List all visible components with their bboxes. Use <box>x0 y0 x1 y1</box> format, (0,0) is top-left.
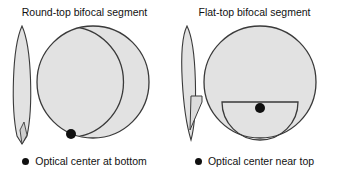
segment-profile-wedge <box>190 96 202 130</box>
caption-text-flat-top: Optical center near top <box>208 155 314 168</box>
caption-round-top: Optical center at bottom <box>0 155 169 168</box>
filled-circle-icon <box>22 158 29 165</box>
optical-center-marker <box>66 129 76 139</box>
lens-outline-circle <box>204 26 316 138</box>
panel-flat-top: Flat-top bifocal segment Optical center … <box>170 0 339 173</box>
optical-center-marker <box>255 103 265 113</box>
caption-text-round-top: Optical center at bottom <box>35 155 146 168</box>
round-top-diagram <box>0 18 169 148</box>
flat-top-diagram <box>170 18 339 148</box>
lens-front-view-flat-top <box>204 26 316 140</box>
lens-edge-profile-round-top <box>13 26 30 144</box>
lens-front-view-round-top <box>13 26 150 139</box>
lens-edge-profile-flat-top <box>182 26 202 140</box>
lens-outline-circle <box>37 26 149 138</box>
bifocal-segment-comparison-figure: Round-top bifocal segment <box>0 0 339 173</box>
panel-round-top: Round-top bifocal segment <box>0 0 169 173</box>
filled-circle-icon <box>195 158 202 165</box>
caption-flat-top: Optical center near top <box>170 155 339 168</box>
